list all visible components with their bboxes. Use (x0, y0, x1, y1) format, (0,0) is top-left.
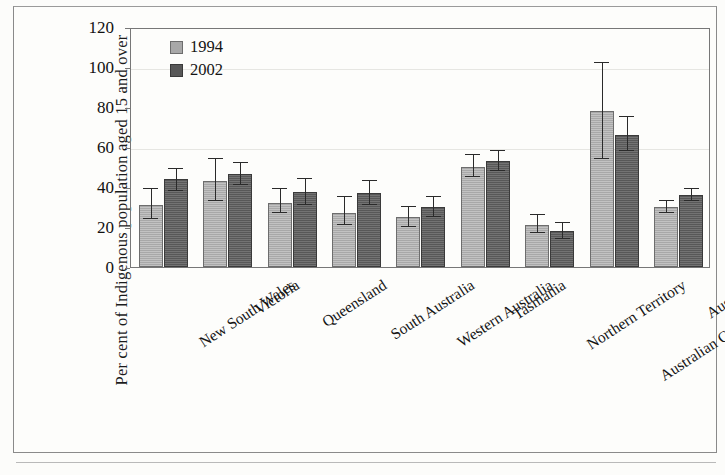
legend-label: 2002 (190, 62, 223, 79)
error-bar-upper-cap (272, 188, 287, 189)
error-bar-upper-cap (555, 222, 570, 223)
error-bar-upper-cap (659, 200, 674, 201)
y-axis-tick-label: 60 (72, 139, 114, 156)
error-bar (357, 181, 381, 267)
error-bar (164, 169, 188, 267)
error-bar-upper-cap (208, 158, 223, 159)
error-bar-stem (562, 223, 563, 239)
legend-swatch-icon (170, 64, 183, 77)
error-bar-upper-cap (362, 180, 377, 181)
error-bar-stem (280, 189, 281, 213)
error-bar (654, 201, 678, 267)
bar-group (453, 27, 517, 267)
error-bar-lower-cap (659, 212, 674, 213)
y-axis-tick-label: 20 (72, 219, 114, 236)
error-bar (679, 189, 703, 267)
error-bar-stem (408, 207, 409, 227)
error-bar (590, 63, 614, 267)
bar-group (260, 27, 324, 267)
error-bar (461, 155, 485, 267)
error-bar (525, 215, 549, 267)
legend-item: 1994 (170, 36, 223, 59)
error-bar-upper-cap (337, 196, 352, 197)
y-axis-title: Per cent of Indigenous population aged 1… (112, 0, 132, 420)
error-bar-lower-cap (297, 204, 312, 205)
y-axis-tick-label: 0 (72, 259, 114, 276)
error-bar-lower-cap (555, 238, 570, 239)
y-axis-tick-label: 80 (72, 99, 114, 116)
bar-group (324, 27, 388, 267)
error-bar-upper-cap (297, 178, 312, 179)
bar-group (518, 27, 582, 267)
error-bar (268, 189, 292, 267)
error-bar-upper-cap (143, 188, 158, 189)
error-bar-lower-cap (272, 212, 287, 213)
error-bar-stem (215, 159, 216, 201)
error-bar-lower-cap (490, 170, 505, 171)
error-bar-stem (369, 181, 370, 205)
error-bar (486, 151, 510, 267)
error-bar (139, 189, 163, 267)
error-bar-upper-cap (530, 214, 545, 215)
legend-label: 1994 (190, 39, 223, 56)
legend-item: 2002 (170, 59, 223, 82)
error-bar (293, 179, 317, 267)
error-bar-stem (498, 151, 499, 171)
error-bar (615, 117, 639, 267)
error-bar-stem (627, 117, 628, 151)
error-bar-lower-cap (465, 176, 480, 177)
error-bar-upper-cap (426, 196, 441, 197)
error-bar-upper-cap (465, 154, 480, 155)
error-bar (396, 207, 420, 267)
error-bar-lower-cap (168, 190, 183, 191)
error-bar-stem (240, 163, 241, 185)
bar-group (582, 27, 646, 267)
error-bar-upper-cap (233, 162, 248, 163)
error-bar-upper-cap (168, 168, 183, 169)
error-bar-lower-cap (208, 200, 223, 201)
error-bar-upper-cap (401, 206, 416, 207)
error-bar (332, 197, 356, 267)
error-bar-lower-cap (143, 218, 158, 219)
error-bar-lower-cap (401, 226, 416, 227)
error-bar-lower-cap (684, 200, 699, 201)
y-axis-tick-label: 40 (72, 179, 114, 196)
error-bar-upper-cap (490, 150, 505, 151)
error-bar-lower-cap (362, 204, 377, 205)
bar-group (647, 27, 711, 267)
error-bar-lower-cap (530, 232, 545, 233)
error-bar-stem (602, 63, 603, 159)
error-bar-lower-cap (619, 150, 634, 151)
error-bar-stem (305, 179, 306, 205)
error-bar-stem (473, 155, 474, 177)
error-bar-stem (537, 215, 538, 233)
chart-legend: 19942002 (170, 36, 223, 82)
error-bar-lower-cap (337, 224, 352, 225)
document-bottom-rule (16, 462, 716, 463)
error-bar (550, 223, 574, 267)
error-bar-upper-cap (594, 62, 609, 63)
error-bar (421, 197, 445, 267)
y-axis-tick-label: 100 (72, 59, 114, 76)
error-bar (228, 163, 252, 267)
error-bar-stem (151, 189, 152, 219)
error-bar-stem (176, 169, 177, 191)
error-bar-upper-cap (619, 116, 634, 117)
error-bar-stem (344, 197, 345, 225)
error-bar-lower-cap (426, 216, 441, 217)
error-bar-lower-cap (233, 184, 248, 185)
bar-group (389, 27, 453, 267)
error-bar-stem (433, 197, 434, 217)
error-bar-upper-cap (684, 188, 699, 189)
error-bar-lower-cap (594, 158, 609, 159)
legend-swatch-icon (170, 41, 183, 54)
error-bar (203, 159, 227, 267)
y-axis-tick-label: 120 (72, 19, 114, 36)
y-axis-tick-mark (125, 268, 130, 269)
chart-page: Per cent of Indigenous population aged 1… (0, 0, 725, 475)
